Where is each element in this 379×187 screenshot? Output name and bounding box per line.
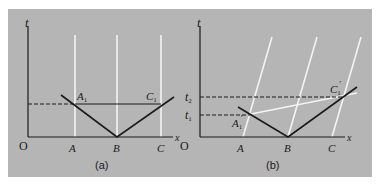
t-axis-label: t bbox=[25, 15, 29, 30]
point-b-label: B bbox=[113, 142, 120, 154]
event-a1-prime-label: A1′ bbox=[231, 113, 243, 131]
event-c1-prime-label: C1′ bbox=[330, 79, 342, 97]
point-c-label: C bbox=[157, 142, 165, 154]
panel-a: t x O A B C A1 C1 (a) bbox=[19, 15, 180, 171]
panel-b: t x O t2 t1 A B C A1′ C1′ (b) bbox=[180, 15, 361, 171]
spacetime-diagrams: t x O A B C A1 C1 (a) t x O t2 t1 A B C … bbox=[0, 0, 379, 187]
worldline-a-moving bbox=[243, 37, 272, 137]
event-a1-label: A1 bbox=[76, 90, 88, 104]
point-c-label: C bbox=[328, 142, 336, 154]
panel-a-caption: (a) bbox=[95, 159, 108, 171]
worldline-b-moving bbox=[288, 37, 317, 137]
origin-label: O bbox=[180, 139, 189, 153]
point-a-label: A bbox=[68, 142, 76, 154]
point-b-label: B bbox=[284, 142, 291, 154]
t1-label: t1 bbox=[185, 108, 192, 123]
event-c1-label: C1 bbox=[146, 90, 157, 104]
t-axis-label: t bbox=[197, 15, 201, 30]
t2-label: t2 bbox=[185, 90, 192, 105]
origin-label: O bbox=[19, 139, 28, 153]
point-a-label: A bbox=[236, 142, 244, 154]
x-axis-label: x bbox=[346, 132, 352, 143]
panel-b-caption: (b) bbox=[266, 159, 279, 171]
